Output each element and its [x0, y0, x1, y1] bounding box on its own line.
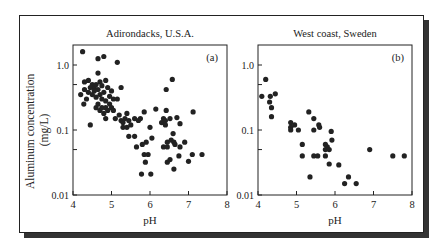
svg-text:0.01: 0.01 — [237, 190, 255, 201]
data-point — [174, 115, 179, 120]
data-point — [109, 88, 114, 93]
data-point — [134, 144, 139, 149]
data-point — [300, 153, 305, 158]
data-point — [176, 153, 181, 158]
figure-svg: Aluminum concentration (mg/L) Adirondack… — [0, 0, 444, 251]
data-point — [336, 162, 341, 167]
data-point — [329, 129, 334, 134]
data-point — [126, 134, 131, 139]
data-point — [88, 122, 93, 127]
data-point — [172, 142, 177, 147]
data-point — [124, 111, 129, 116]
data-point — [402, 153, 407, 158]
data-point — [259, 94, 264, 99]
data-point — [101, 54, 106, 59]
svg-text:5: 5 — [109, 199, 114, 210]
data-point — [199, 152, 204, 157]
data-point — [273, 91, 278, 96]
data-point — [119, 85, 124, 90]
data-point — [88, 85, 93, 90]
data-point — [342, 181, 347, 186]
svg-text:7: 7 — [371, 199, 376, 210]
panel-b-x-label: pH — [328, 214, 342, 226]
data-point — [307, 174, 312, 179]
data-point — [296, 127, 301, 132]
data-point — [292, 122, 297, 127]
data-point — [323, 153, 328, 158]
data-point — [327, 161, 332, 166]
data-point — [186, 159, 191, 164]
data-point — [149, 136, 154, 141]
data-point — [346, 174, 351, 179]
svg-text:8: 8 — [224, 199, 229, 210]
data-point — [167, 116, 172, 121]
data-point — [268, 94, 273, 99]
svg-text:6: 6 — [332, 199, 337, 210]
data-point — [147, 125, 152, 130]
panel-b-label: (b) — [392, 52, 405, 64]
svg-text:1.0: 1.0 — [242, 60, 255, 71]
data-point — [103, 78, 108, 83]
data-point — [139, 172, 144, 177]
data-point — [165, 144, 170, 149]
data-point — [95, 56, 100, 61]
data-point — [153, 107, 158, 112]
data-point — [177, 144, 182, 149]
data-point — [115, 96, 120, 101]
data-point — [311, 116, 316, 121]
svg-text:0.01: 0.01 — [52, 190, 70, 201]
data-point — [142, 109, 147, 114]
data-point — [315, 153, 320, 158]
data-point — [95, 87, 100, 92]
data-point — [132, 134, 137, 139]
data-point — [113, 116, 118, 121]
data-point — [390, 153, 395, 158]
panel-a-title: Adirondacks, U.S.A. — [106, 28, 194, 39]
data-point — [144, 140, 149, 145]
data-point — [171, 131, 176, 136]
data-point — [300, 142, 305, 147]
data-point — [143, 160, 148, 165]
data-point — [117, 112, 122, 117]
data-point — [317, 125, 322, 130]
data-point — [138, 116, 143, 121]
data-point — [95, 71, 100, 76]
data-point — [84, 96, 89, 101]
panel-b: West coast, Sweden (b) 456780.010.11.0 p… — [237, 28, 415, 226]
data-point — [78, 92, 83, 97]
panel-a-label: (a) — [206, 52, 218, 64]
data-point — [190, 152, 195, 157]
data-point — [80, 49, 85, 54]
data-point — [81, 102, 86, 107]
panel-a: Adirondacks, U.S.A. (a) 456780.010.11.0 … — [52, 28, 230, 226]
data-point — [163, 122, 168, 127]
panel-b-title: West coast, Sweden — [293, 28, 377, 39]
data-point — [311, 127, 316, 132]
data-point — [124, 125, 129, 130]
data-point — [99, 83, 104, 88]
data-point — [170, 77, 175, 82]
data-point — [171, 167, 176, 172]
data-point — [146, 152, 151, 157]
data-point — [327, 147, 332, 152]
data-point — [367, 147, 372, 152]
data-point — [269, 105, 274, 110]
data-point — [263, 77, 268, 82]
panel-a-x-label: pH — [143, 214, 157, 226]
svg-text:0.1: 0.1 — [57, 125, 70, 136]
svg-text:4: 4 — [255, 199, 261, 210]
svg-text:7: 7 — [186, 199, 191, 210]
data-point — [329, 138, 334, 143]
svg-text:8: 8 — [409, 199, 414, 210]
svg-text:4: 4 — [70, 199, 76, 210]
data-point — [191, 109, 196, 114]
panel-b-ticks: 456780.010.11.0 — [237, 60, 415, 211]
data-point — [288, 127, 293, 132]
data-point — [177, 121, 182, 126]
data-point — [182, 140, 187, 145]
data-point — [164, 108, 169, 113]
data-point — [148, 172, 153, 177]
svg-text:6: 6 — [147, 199, 152, 210]
data-point — [86, 78, 91, 83]
y-axis-label: Aluminum concentration (mg/L) — [24, 71, 51, 189]
